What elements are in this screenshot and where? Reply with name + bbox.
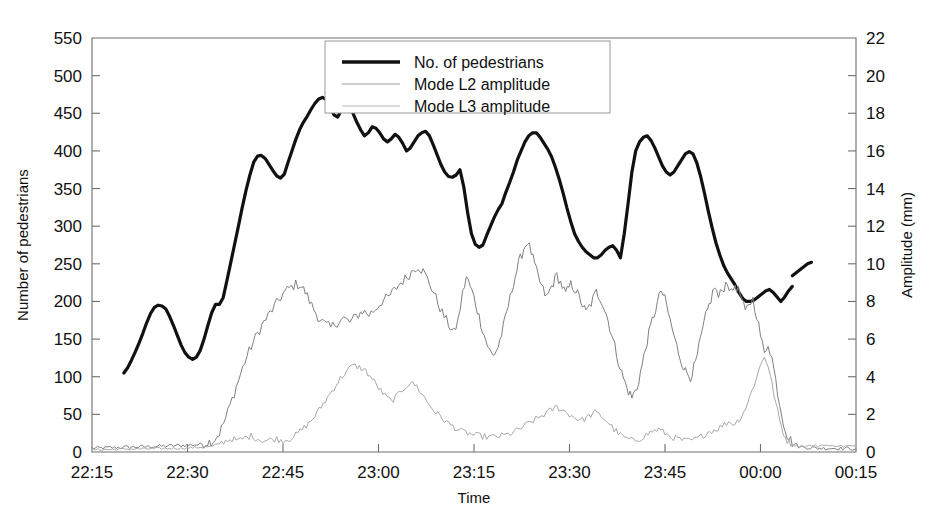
x-tick-label: 23:15 <box>453 463 496 482</box>
x-tick-label: 23:30 <box>548 463 591 482</box>
x-tick-label: 22:15 <box>71 463 114 482</box>
x-tick-label: 22:30 <box>166 463 209 482</box>
legend-label-1: Mode L2 amplitude <box>414 76 550 93</box>
x-tick-label: 23:00 <box>357 463 400 482</box>
pedestrian-amplitude-timeseries-chart: 0501001502002503003504004505005500246810… <box>0 0 937 520</box>
x-tick-label: 22:45 <box>262 463 305 482</box>
y-tick-label: 250 <box>54 255 82 274</box>
y-tick-label: 50 <box>63 405 82 424</box>
y2-tick-label: 22 <box>866 29 885 48</box>
y2-tick-label: 0 <box>866 443 875 462</box>
y-axis-title: Number of pedestrians <box>14 169 31 321</box>
y-tick-label: 300 <box>54 217 82 236</box>
y-tick-label: 150 <box>54 330 82 349</box>
y2-tick-label: 2 <box>866 405 875 424</box>
x-tick-label: 23:45 <box>644 463 687 482</box>
y2-tick-label: 12 <box>866 217 885 236</box>
y2-axis-title: Amplitude (mm) <box>898 192 915 298</box>
y2-tick-label: 6 <box>866 330 875 349</box>
y-tick-label: 350 <box>54 180 82 199</box>
chart-figure: 0501001502002503003504004505005500246810… <box>0 0 937 520</box>
y2-tick-label: 8 <box>866 292 875 311</box>
y2-tick-label: 10 <box>866 255 885 274</box>
legend-label-2: Mode L3 amplitude <box>414 98 550 115</box>
y-tick-label: 0 <box>73 443 82 462</box>
y2-tick-label: 20 <box>866 67 885 86</box>
legend-label-0: No. of pedestrians <box>414 54 544 71</box>
y2-tick-label: 14 <box>866 180 885 199</box>
y-tick-label: 500 <box>54 67 82 86</box>
y-tick-label: 550 <box>54 29 82 48</box>
chart-legend: No. of pedestriansMode L2 amplitudeMode … <box>325 41 610 115</box>
y2-tick-label: 4 <box>866 368 875 387</box>
y-tick-label: 450 <box>54 104 82 123</box>
x-tick-label: 00:15 <box>835 463 878 482</box>
y2-tick-label: 18 <box>866 104 885 123</box>
y2-tick-label: 16 <box>866 142 885 161</box>
x-axis-title: Time <box>458 489 491 506</box>
y-tick-label: 400 <box>54 142 82 161</box>
y-tick-label: 100 <box>54 368 82 387</box>
x-tick-label: 00:00 <box>739 463 782 482</box>
y-tick-label: 200 <box>54 292 82 311</box>
